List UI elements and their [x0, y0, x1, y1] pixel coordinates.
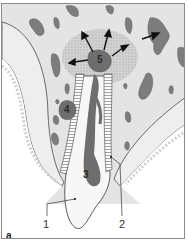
label-4: 4 — [64, 105, 70, 115]
label-2: 2 — [119, 219, 125, 230]
tooth-periapical-diagram — [2, 4, 185, 239]
leader-dot-1 — [74, 198, 76, 200]
label-3: 3 — [83, 170, 89, 180]
figure-frame: 5 4 3 1 2 a — [1, 3, 185, 239]
label-1: 1 — [43, 219, 49, 230]
label-5: 5 — [97, 55, 103, 65]
panel-label: a — [6, 230, 12, 239]
leader-dot-2 — [110, 156, 112, 158]
